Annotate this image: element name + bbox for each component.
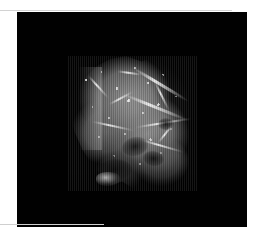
top-rule-divider [0,10,232,11]
screenshot-page [0,0,259,249]
bottom-rule-divider [0,224,104,225]
volume-rendered-specimen[interactable] [68,56,197,191]
specimen-rim-highlight [68,67,102,151]
volume-render-viewport[interactable] [17,12,247,227]
